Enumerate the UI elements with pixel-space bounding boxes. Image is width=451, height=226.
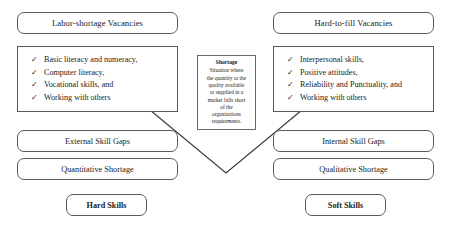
- shortage-definition-line: quality available: [201, 82, 252, 89]
- left-header-label: Labor-shortage Vacancies: [52, 18, 143, 28]
- list-item: ✓ Working with others: [22, 92, 173, 105]
- check-icon: ✓: [278, 92, 300, 105]
- list-item-label: Positive attitudes,: [300, 67, 358, 80]
- shortage-definition-box: Shortage Situation where the quantity or…: [197, 55, 256, 130]
- list-item: ✓ Working with others: [278, 92, 429, 105]
- list-item: ✓ Vocational skills, and: [22, 79, 173, 92]
- check-icon: ✓: [22, 92, 44, 105]
- list-item-label: Reliability and Punctuality, and: [300, 79, 402, 92]
- list-item: ✓ Basic literacy and numeracy,: [22, 54, 173, 67]
- check-icon: ✓: [22, 67, 44, 80]
- left-checklist-box: ✓ Basic literacy and numeracy, ✓ Compute…: [17, 46, 178, 112]
- right-header-label: Hard-to-fill Vacancies: [314, 18, 392, 28]
- right-shortage-label: Qualitative Shortage: [319, 165, 387, 174]
- hard-skills-label: Hard Skills: [87, 201, 127, 210]
- diagram-canvas: Labor-shortage Vacancies ✓ Basic literac…: [0, 0, 451, 226]
- shortage-definition-line: market falls short: [201, 97, 252, 104]
- list-item: ✓ Positive attitudes,: [278, 67, 429, 80]
- left-checklist: ✓ Basic literacy and numeracy, ✓ Compute…: [22, 54, 173, 104]
- right-checklist: ✓ Interpersonal skills, ✓ Positive attit…: [278, 54, 429, 104]
- list-item: ✓ Computer literacy,: [22, 67, 173, 80]
- list-item: ✓ Interpersonal skills,: [278, 54, 429, 67]
- list-item: ✓ Reliability and Punctuality, and: [278, 79, 429, 92]
- left-shortage-box: Quantitative Shortage: [17, 158, 178, 180]
- list-item-label: Basic literacy and numeracy,: [44, 54, 137, 67]
- shortage-definition-line: Situation where: [201, 67, 252, 74]
- list-item-label: Working with others: [44, 92, 110, 105]
- check-icon: ✓: [22, 54, 44, 67]
- right-skill-gap-label: Internal Skill Gaps: [322, 137, 385, 146]
- shortage-definition-line: requirements.: [201, 118, 252, 125]
- list-item-label: Working with others: [300, 92, 366, 105]
- hard-skills-box: Hard Skills: [66, 194, 147, 216]
- shortage-definition-line: the quantity or the: [201, 75, 252, 82]
- right-skill-gap-box: Internal Skill Gaps: [273, 130, 434, 152]
- left-skill-gap-box: External Skill Gaps: [17, 130, 178, 152]
- right-checklist-box: ✓ Interpersonal skills, ✓ Positive attit…: [273, 46, 434, 112]
- list-item-label: Vocational skills, and: [44, 79, 113, 92]
- check-icon: ✓: [278, 54, 300, 67]
- check-icon: ✓: [278, 67, 300, 80]
- shortage-definition-line: or supplied in a: [201, 89, 252, 96]
- shortage-term: Shortage: [201, 59, 252, 66]
- left-shortage-label: Quantitative Shortage: [61, 165, 134, 174]
- shortage-definition-line: of the: [201, 104, 252, 111]
- soft-skills-box: Soft Skills: [305, 194, 386, 216]
- left-header-box: Labor-shortage Vacancies: [17, 12, 178, 34]
- soft-skills-label: Soft Skills: [328, 201, 363, 210]
- check-icon: ✓: [22, 79, 44, 92]
- right-shortage-box: Qualitative Shortage: [273, 158, 434, 180]
- shortage-definition-line: organizations: [201, 111, 252, 118]
- check-icon: ✓: [278, 79, 300, 92]
- left-skill-gap-label: External Skill Gaps: [65, 137, 130, 146]
- right-header-box: Hard-to-fill Vacancies: [273, 12, 434, 34]
- list-item-label: Computer literacy,: [44, 67, 104, 80]
- list-item-label: Interpersonal skills,: [300, 54, 364, 67]
